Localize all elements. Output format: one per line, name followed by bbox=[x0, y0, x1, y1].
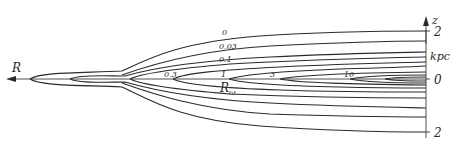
r-omega-label: R bbox=[219, 81, 229, 95]
tick-label-top: 2 bbox=[433, 25, 442, 39]
tick-label-zero: 0 bbox=[434, 73, 442, 87]
z-axis-arrow-icon bbox=[423, 16, 429, 26]
contour-diagram: z 2 kpc 0 2 R 0 0.03 0.1 0.3 1 3 10 R ω bbox=[0, 0, 455, 144]
contour-label-1: 1 bbox=[221, 70, 226, 79]
r-omega-subscript: ω bbox=[229, 88, 236, 97]
radial-axis bbox=[6, 76, 30, 82]
unit-label: kpc bbox=[430, 50, 450, 63]
contour-label-0.3: 0.3 bbox=[164, 70, 177, 79]
radial-axis-label: R bbox=[11, 61, 21, 75]
contour-label-0.03: 0.03 bbox=[219, 42, 237, 51]
tick-label-bottom: 2 bbox=[433, 126, 442, 140]
contour-label-0.1: 0.1 bbox=[219, 55, 232, 64]
contour-label-3: 3 bbox=[270, 70, 275, 79]
contour-label-0: 0 bbox=[222, 28, 227, 37]
contour-0.1 bbox=[70, 52, 426, 108]
r-arrow-icon bbox=[6, 76, 16, 82]
contour-label-10: 10 bbox=[344, 70, 354, 79]
